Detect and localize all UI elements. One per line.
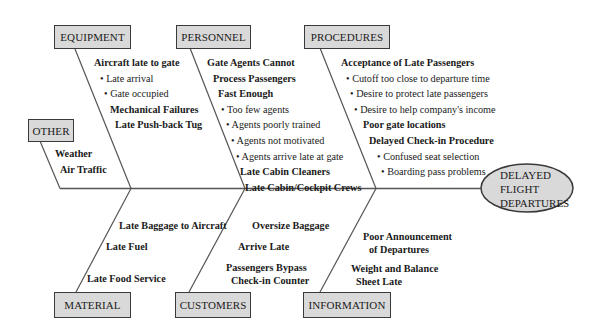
effect-line-3: DEPARTURES	[500, 196, 573, 210]
cause-subitem: Confused seat selection	[377, 149, 521, 165]
cause-item: Gate Agents Cannot	[207, 55, 323, 71]
effect-line-2: FLIGHT	[500, 182, 573, 196]
cause-item: Process Passengers	[213, 71, 329, 87]
cause-item: Delayed Check-in Procedure	[369, 133, 513, 149]
category-information: INFORMATION	[303, 292, 391, 318]
cause-item: Arrive Late	[238, 239, 289, 255]
cause-subitem: Boarding pass problems	[381, 164, 525, 180]
cause-subitem: Agents poorly trained	[226, 117, 342, 133]
cause-item: Oversize Baggage	[252, 218, 329, 234]
category-equipment: EQUIPMENT	[54, 25, 131, 49]
category-material: MATERIAL	[54, 292, 131, 318]
category-procedures: PROCEDURES	[304, 25, 390, 49]
cause-item: Late Fuel	[106, 239, 148, 255]
cause-subitem: Desire to protect late passengers	[350, 86, 494, 102]
cause-item: Late Baggage to Aircraft	[119, 218, 227, 234]
cause-subitem: Cutoff too close to departure time	[346, 71, 490, 87]
cause-subitem: Agents arrive late at gate	[236, 149, 352, 165]
cause-item: Late Food Service	[87, 271, 166, 287]
cause-subitem: Too few agents	[221, 102, 337, 118]
fishbone-diagram: DELAYED FLIGHT DEPARTURES EQUIPMENT PERS…	[0, 0, 601, 334]
causes-other: Weather Air Traffic	[0, 146, 47, 177]
category-personnel: PERSONNEL	[176, 25, 251, 49]
cause-item: Check-in Counter	[231, 273, 309, 289]
cause-item: Acceptance of Late Passengers	[341, 55, 485, 71]
cause-item: Air Traffic	[60, 162, 107, 178]
cause-item: Sheet Late	[356, 274, 402, 290]
cause-item: of Departures	[369, 242, 429, 258]
cause-subitem: Agents not motivated	[231, 133, 347, 149]
cause-item: Late Cabin/Cockpit Crews	[245, 180, 361, 196]
cause-item: Poor gate locations	[363, 117, 507, 133]
cause-item: Late Cabin Cleaners	[240, 164, 356, 180]
cause-item: Weather	[55, 146, 102, 162]
category-customers: CUSTOMERS	[175, 292, 251, 318]
cause-item: Fast Enough	[218, 86, 334, 102]
cause-subitem: Desire to help company's income	[354, 102, 498, 118]
